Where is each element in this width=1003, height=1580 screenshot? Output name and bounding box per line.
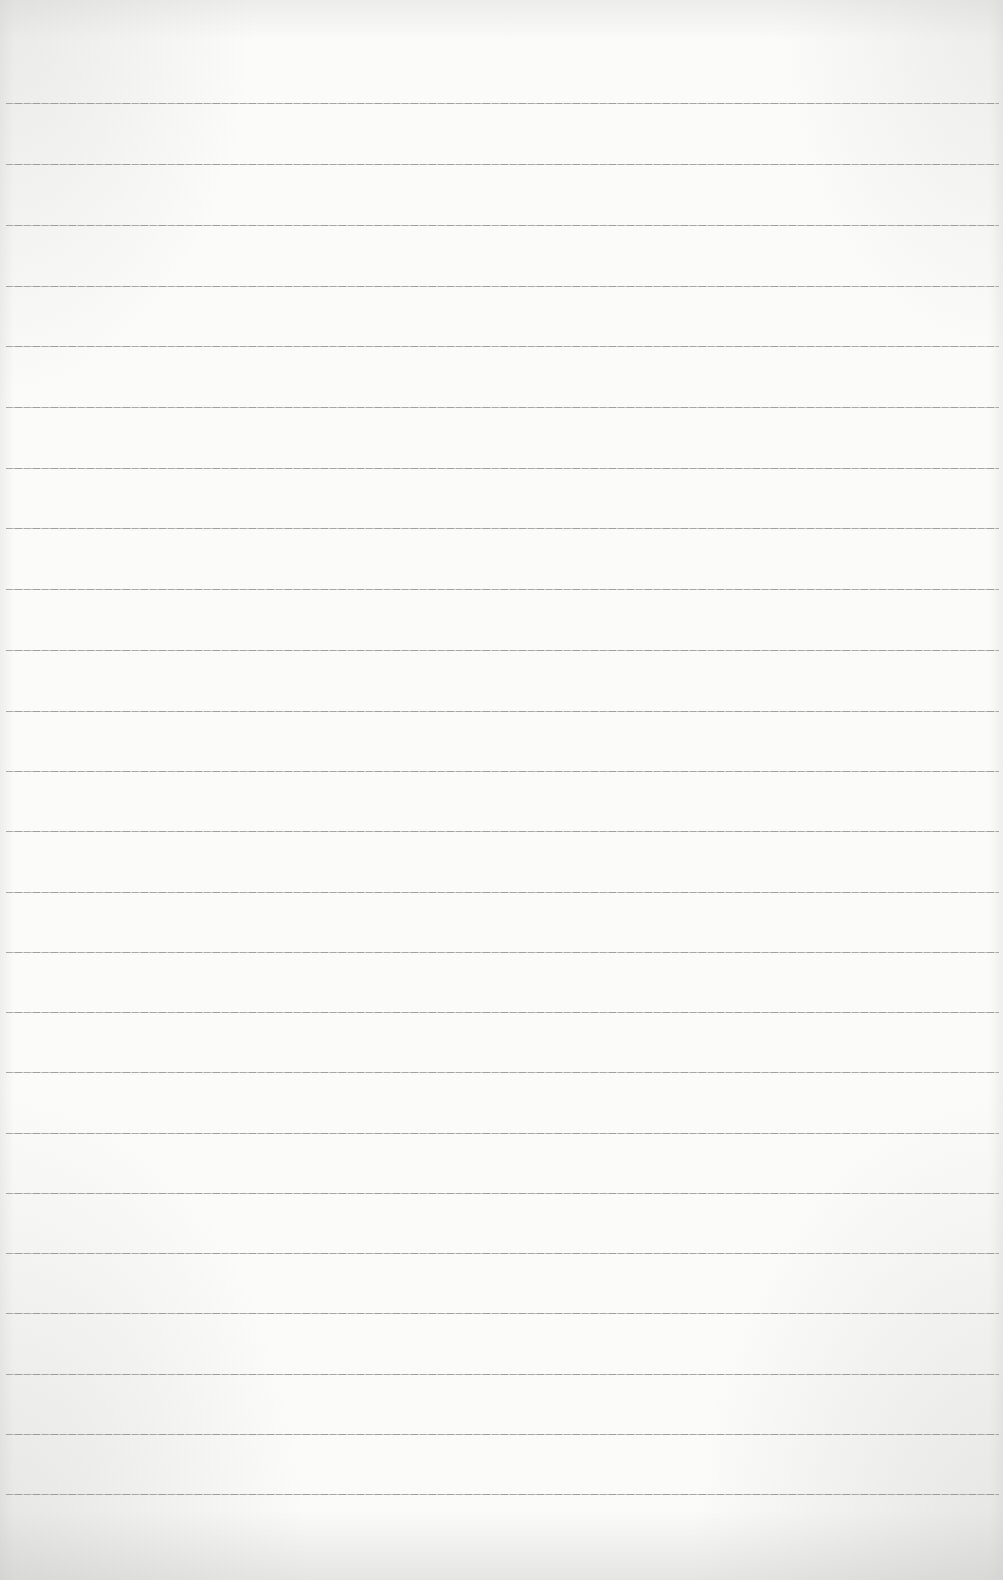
ruled-line xyxy=(6,1313,999,1314)
ruled-line xyxy=(6,952,999,953)
ruled-line xyxy=(6,1072,999,1073)
ruled-line xyxy=(6,892,999,893)
ruled-line xyxy=(6,286,999,287)
lined-paper-sheet xyxy=(0,0,1003,1580)
ruled-line xyxy=(6,711,999,712)
ruled-line xyxy=(6,346,999,347)
ruled-line xyxy=(6,407,999,408)
ruled-line xyxy=(6,164,999,165)
ruled-line xyxy=(6,1193,999,1194)
ruled-line xyxy=(6,1012,999,1013)
ruled-line xyxy=(6,1253,999,1254)
ruled-line xyxy=(6,468,999,469)
ruled-line xyxy=(6,1434,999,1435)
ruled-line xyxy=(6,1133,999,1134)
ruled-line xyxy=(6,650,999,651)
ruled-line xyxy=(6,589,999,590)
ruled-line xyxy=(6,771,999,772)
ruled-line xyxy=(6,528,999,529)
ruled-line xyxy=(6,1494,999,1495)
ruled-line xyxy=(6,1374,999,1375)
ruled-line xyxy=(6,225,999,226)
ruled-line xyxy=(6,831,999,832)
ruled-line xyxy=(6,103,999,104)
